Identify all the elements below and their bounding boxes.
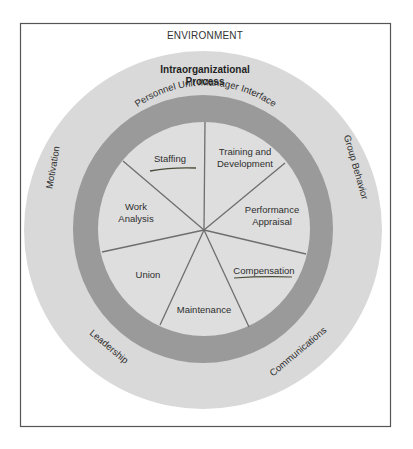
process-label-line1: Intraorganizational <box>160 64 250 75</box>
segment-union: Union <box>136 269 161 280</box>
segment-training-and-development: Training and Development <box>217 146 273 169</box>
segment-label: Appraisal <box>252 216 292 227</box>
diagram-canvas: ENVIRONMENT Intraorganizational Process … <box>0 0 413 449</box>
segment-maintenance: Maintenance <box>177 304 231 315</box>
environment-label: ENVIRONMENT <box>167 30 243 41</box>
segment-label: Work <box>125 201 147 212</box>
segment-label: Compensation <box>233 265 294 276</box>
segment-performance-appraisal: Performance Appraisal <box>245 204 299 227</box>
segment-label: Staffing <box>154 153 186 164</box>
segment-label: Union <box>136 269 161 280</box>
segment-label: Performance <box>245 204 299 215</box>
segment-label: Development <box>217 158 273 169</box>
segment-label: Maintenance <box>177 304 231 315</box>
segment-label: Analysis <box>118 213 154 224</box>
segment-label: Training and <box>219 146 271 157</box>
